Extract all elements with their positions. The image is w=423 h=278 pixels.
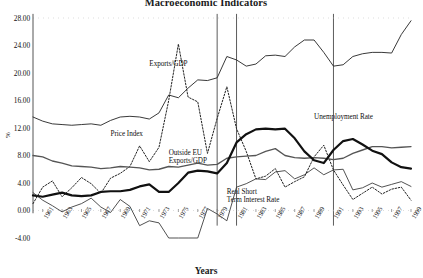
data-series <box>33 21 411 238</box>
series-line <box>33 168 411 238</box>
series-line <box>33 129 411 197</box>
series-line <box>33 21 411 126</box>
x-axis-title: Years <box>0 266 412 276</box>
series-line <box>33 147 411 170</box>
